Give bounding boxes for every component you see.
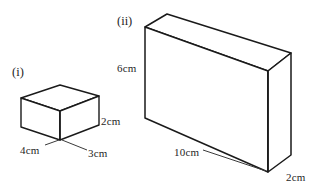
cuboid-i-width-label: 4cm [20,145,40,156]
cuboid-i-height-label: 2cm [101,116,121,127]
cuboid-ii-depth-label: 2cm [286,172,306,183]
cuboid-ii-height-label: 6cm [117,63,137,74]
cuboid-ii-length-label: 10cm [174,147,199,158]
figure-ii-index-label: (ii) [117,15,132,28]
cuboid-i-shape [21,85,99,140]
cuboid-ii-shape [145,14,291,172]
figure-i-index-label: (i) [12,66,24,79]
cuboid-ii-right-face [268,53,291,172]
geometry-figure-canvas [0,0,317,194]
cuboid-i-depth-leader [62,140,87,150]
cuboid-i-depth-label: 3cm [88,148,108,159]
cuboid-i-width-leader [45,140,59,145]
